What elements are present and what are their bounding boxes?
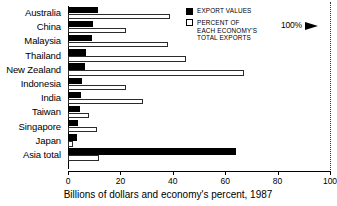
- bar-row: [68, 134, 330, 148]
- bar-export-values: [68, 148, 236, 154]
- reference-arrow-icon: [305, 22, 318, 30]
- bar-export-values: [68, 106, 80, 112]
- legend-label-line: EXPORT VALUES: [197, 7, 252, 15]
- bar-percent-of-total-exports: [68, 14, 170, 19]
- category-label: Indonesia: [0, 77, 64, 91]
- x-axis-tick: [278, 171, 279, 175]
- x-axis-tick-label: 100: [323, 176, 337, 186]
- x-axis-title: Billions of dollars and economy's percen…: [0, 189, 336, 200]
- bar-row: [68, 148, 330, 162]
- legend-label-line: EACH ECONOMY'S: [197, 27, 257, 35]
- category-label: Thailand: [0, 49, 64, 63]
- category-label: New Zealand: [0, 63, 64, 77]
- legend-item: EXPORT VALUES: [186, 7, 257, 15]
- bar-export-values: [68, 78, 82, 84]
- category-label: Malaysia: [0, 34, 64, 48]
- legend-label: PERCENT OFEACH ECONOMY'STOTAL EXPORTS: [197, 19, 257, 42]
- x-axis-tick: [68, 171, 69, 175]
- bar-export-values: [68, 35, 92, 41]
- bar-row: [68, 91, 330, 105]
- reference-line-100-percent: [330, 2, 331, 172]
- bar-percent-of-total-exports: [68, 42, 168, 47]
- bar-percent-of-total-exports: [68, 99, 143, 104]
- bar-row: [68, 63, 330, 77]
- category-label: Singapore: [0, 120, 64, 134]
- bar-export-values: [68, 49, 86, 55]
- bar-export-values: [68, 63, 85, 69]
- x-axis-tick-label: 0: [66, 176, 71, 186]
- bar-percent-of-total-exports: [68, 56, 186, 61]
- category-label: Taiwan: [0, 105, 64, 119]
- bar-percent-of-total-exports: [68, 141, 73, 146]
- bar-export-values: [68, 120, 78, 126]
- bar-percent-of-total-exports: [68, 113, 89, 118]
- bar-export-values: [68, 21, 93, 27]
- x-axis-tick: [225, 171, 226, 175]
- bar-percent-of-total-exports: [68, 70, 244, 75]
- bar-percent-of-total-exports: [68, 28, 126, 33]
- bar-row: [68, 120, 330, 134]
- x-axis-tick-label: 20: [116, 176, 125, 186]
- legend-item: PERCENT OFEACH ECONOMY'STOTAL EXPORTS: [186, 19, 257, 42]
- category-label: China: [0, 20, 64, 34]
- bar-percent-of-total-exports: [68, 85, 126, 90]
- category-label: India: [0, 91, 64, 105]
- bar-row: [68, 49, 330, 63]
- bar-row: [68, 77, 330, 91]
- x-axis-tick: [173, 171, 174, 175]
- reference-line-label: 100%: [281, 20, 302, 30]
- bar-percent-of-total-exports: [68, 127, 97, 132]
- x-axis-line: [68, 171, 330, 172]
- chart-legend: EXPORT VALUESPERCENT OFEACH ECONOMY'STOT…: [186, 7, 257, 46]
- bar-export-values: [68, 92, 81, 98]
- legend-swatch-filled-icon: [186, 8, 193, 15]
- category-label: Japan: [0, 134, 64, 148]
- category-label: Australia: [0, 6, 64, 20]
- category-label: Asia total: [0, 148, 64, 162]
- legend-label: EXPORT VALUES: [197, 7, 252, 15]
- legend-label-line: PERCENT OF: [197, 19, 257, 27]
- bar-export-values: [68, 134, 77, 140]
- x-axis-tick-label: 60: [220, 176, 229, 186]
- x-axis-tick: [330, 171, 331, 175]
- legend-swatch-open-icon: [186, 19, 193, 26]
- bar-export-values: [68, 7, 98, 13]
- bar-row: [68, 105, 330, 119]
- bar-percent-of-total-exports: [68, 155, 99, 160]
- x-axis-tick-label: 40: [168, 176, 177, 186]
- legend-label-line: TOTAL EXPORTS: [197, 34, 257, 42]
- category-axis-labels: AustraliaChinaMalaysiaThailandNew Zealan…: [0, 6, 64, 162]
- x-axis-tick: [120, 171, 121, 175]
- x-axis-tick-label: 80: [273, 176, 282, 186]
